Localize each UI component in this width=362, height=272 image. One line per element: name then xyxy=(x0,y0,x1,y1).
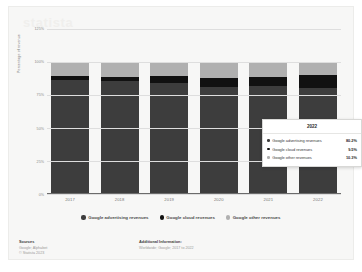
bar-segment[interactable] xyxy=(51,62,89,77)
bar-column[interactable]: 2021 xyxy=(249,29,287,193)
legend-label: Google other revenues xyxy=(233,215,281,220)
gridline: 100% xyxy=(47,62,341,63)
footer-sources: Sources Google; Alphabet © Statista 2023 xyxy=(19,239,139,256)
x-axis-tick-label: 2019 xyxy=(150,197,188,202)
series-color-dot-icon xyxy=(267,148,270,151)
tooltip-series-value: 9.5% xyxy=(348,147,357,152)
tooltip-series-label: Google cloud revenues xyxy=(272,147,348,152)
gridline: 125% xyxy=(47,29,341,30)
tooltip-series-value: 80.2% xyxy=(346,138,357,143)
chart-canvas: statista Percentage of revenue 201720182… xyxy=(8,6,354,260)
bar-segment[interactable] xyxy=(299,75,337,87)
x-axis-tick-label: 2017 xyxy=(51,197,89,202)
legend-color-dot-icon xyxy=(81,215,85,219)
bar-segment[interactable] xyxy=(150,76,188,83)
legend-label: Google cloud revenues xyxy=(166,215,215,220)
additional-info-title: Additional Information: xyxy=(139,239,194,244)
x-axis-tick-label: 2022 xyxy=(299,197,337,202)
legend-label: Google advertising revenues xyxy=(88,215,148,220)
bar-segment[interactable] xyxy=(200,78,238,87)
y-axis-tick-label: 50% xyxy=(37,127,44,131)
series-color-dot-icon xyxy=(267,156,270,159)
additional-info-line-1: Worldwide; Google; 2017 to 2022 xyxy=(139,246,194,251)
bar-segment[interactable] xyxy=(150,62,188,76)
legend-item[interactable]: Google advertising revenues xyxy=(81,215,148,220)
chart-legend: Google advertising revenuesGoogle cloud … xyxy=(9,215,353,220)
bar-segment[interactable] xyxy=(249,62,287,77)
bar-column[interactable]: 2019 xyxy=(150,29,188,193)
legend-item[interactable]: Google cloud revenues xyxy=(160,215,215,220)
chart-footer: Sources Google; Alphabet © Statista 2023… xyxy=(19,239,343,256)
bar-segment[interactable] xyxy=(101,62,139,77)
chart-tooltip[interactable]: 2022 Google advertising revenues80.2%Goo… xyxy=(262,119,362,167)
x-axis-tick-label: 2021 xyxy=(249,197,287,202)
series-color-dot-icon xyxy=(267,139,270,142)
bar-segment[interactable] xyxy=(150,83,188,193)
gridline: 0% xyxy=(47,194,341,195)
y-axis-tick-label: 100% xyxy=(35,60,44,64)
bar-column[interactable]: 2020 xyxy=(200,29,238,193)
y-axis-tick-label: 25% xyxy=(37,160,44,164)
y-axis-tick-label: 75% xyxy=(37,93,44,97)
bar-segment[interactable] xyxy=(200,62,238,78)
y-axis-title: Percentage of revenue xyxy=(17,0,21,73)
tooltip-header: 2022 xyxy=(263,120,361,134)
plot-grid: 201720182019202020212022 125%100%75%50%2… xyxy=(47,29,341,194)
gridline: 75% xyxy=(47,95,341,96)
tooltip-series-label: Google other revenues xyxy=(272,155,346,160)
y-axis-tick-label: 0% xyxy=(39,193,44,197)
bar-segment[interactable] xyxy=(51,80,89,193)
bar-column[interactable]: 2017 xyxy=(51,29,89,193)
tooltip-series-value: 10.3% xyxy=(346,155,357,160)
y-axis-tick-label: 125% xyxy=(35,27,44,31)
bar-segment[interactable] xyxy=(249,77,287,87)
legend-color-dot-icon xyxy=(160,215,164,219)
footer-additional-info: Additional Information: Worldwide; Googl… xyxy=(139,239,194,256)
bar-group: 201720182019202020212022 xyxy=(47,29,341,193)
tooltip-row: Google other revenues10.3% xyxy=(267,153,357,161)
chart-page: statista Percentage of revenue 201720182… xyxy=(0,0,362,272)
bar-segment[interactable] xyxy=(101,81,139,193)
bar-segment[interactable] xyxy=(200,87,238,193)
tooltip-series-label: Google advertising revenues xyxy=(272,138,346,143)
tooltip-row: Google advertising revenues80.2% xyxy=(267,137,357,145)
tooltip-rows: Google advertising revenues80.2%Google c… xyxy=(263,134,361,166)
tooltip-row: Google cloud revenues9.5% xyxy=(267,145,357,153)
bar-column[interactable]: 2018 xyxy=(101,29,139,193)
x-axis-tick-label: 2020 xyxy=(200,197,238,202)
x-axis-tick-label: 2018 xyxy=(101,197,139,202)
legend-color-dot-icon xyxy=(226,215,230,219)
sources-title: Sources xyxy=(19,239,139,244)
bar-segment[interactable] xyxy=(299,62,337,76)
sources-line-2: © Statista 2023 xyxy=(19,251,139,256)
bar-column[interactable]: 2022 xyxy=(299,29,337,193)
legend-item[interactable]: Google other revenues xyxy=(226,215,281,220)
plot-area: Percentage of revenue 201720182019202020… xyxy=(19,17,345,207)
